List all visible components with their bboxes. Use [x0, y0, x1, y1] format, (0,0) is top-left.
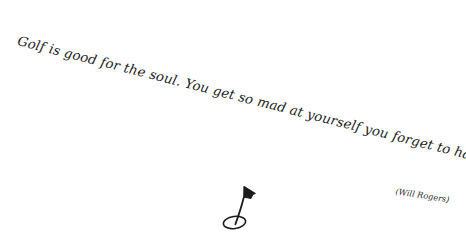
- quote-canvas: Golf is good for the soul. You get so ma…: [0, 0, 466, 235]
- golf-flag-pole: [235, 198, 243, 224]
- attribution-line: (Will Rogers): [395, 179, 452, 206]
- quote-line: Golf is good for the soul. You get so ma…: [16, 30, 466, 191]
- attribution-text: (Will Rogers): [395, 187, 450, 204]
- quote-text: Golf is good for the soul. You get so ma…: [16, 34, 466, 189]
- golf-flag-pennant: [244, 187, 255, 199]
- golf-hole-shape: [223, 215, 247, 230]
- golf-flag-in-hole-icon: [218, 184, 262, 234]
